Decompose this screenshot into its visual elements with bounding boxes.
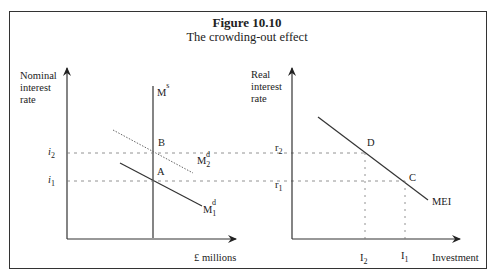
point-d-label: D (367, 137, 375, 149)
I2-label: I2 (360, 252, 368, 268)
money-supply-label: Ms (157, 83, 169, 99)
left-x-axis-label: £ millions (194, 252, 236, 264)
md1-label: d M1 (203, 204, 216, 220)
i1-label: i1 (48, 174, 55, 190)
point-b-label: B (158, 137, 165, 149)
right-y-axis-label: Real interest rate (251, 69, 282, 105)
diagram-canvas (0, 0, 494, 278)
right-x-axis-label: Investment (432, 252, 479, 264)
point-a-label: A (157, 166, 165, 178)
left-y-axis-label: Nominal interest rate (20, 70, 57, 106)
point-c-label: C (409, 172, 416, 184)
mei-curve (318, 117, 428, 200)
mei-label: MEI (432, 196, 451, 208)
r1-label: r1 (275, 179, 283, 195)
I1-label: I1 (401, 250, 409, 266)
r2-label: r2 (275, 142, 283, 158)
md2-label: d M2 (197, 155, 210, 171)
i2-label: i2 (48, 146, 55, 162)
